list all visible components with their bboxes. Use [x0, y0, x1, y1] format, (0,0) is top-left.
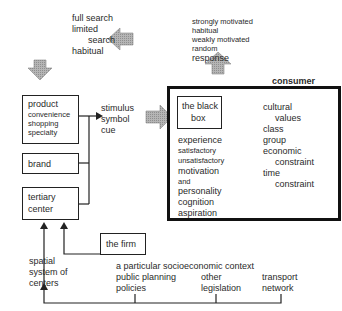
product-box: product convenience shopping specialty — [22, 95, 79, 144]
response-habitual: habitual — [192, 26, 218, 35]
spatial-line1: spatial — [29, 256, 55, 266]
stimulus-label: stimulus — [101, 103, 134, 113]
black-box-line1: the black — [182, 101, 218, 111]
public-planning-line2: policies — [116, 283, 146, 293]
product-convenience: convenience — [28, 110, 70, 119]
satisfactory-label: satisfactory — [178, 146, 216, 155]
search-type-full: full search — [72, 13, 113, 23]
time-label: time — [263, 168, 280, 178]
arrowhead-tertiary-spatial — [40, 222, 48, 229]
class-label: class — [263, 124, 284, 134]
response-label: response — [192, 53, 229, 63]
the-firm-label: the firm — [106, 239, 136, 249]
spatial-line2: system of — [29, 267, 68, 277]
group-label: group — [263, 135, 286, 145]
economic-label: economic — [263, 146, 302, 156]
tertiary-center-box: tertiary center — [22, 187, 79, 220]
product-specialty: specialty — [28, 128, 57, 137]
context-title: a particular socioeconomic context — [116, 261, 254, 271]
other-legislation-line1: other — [201, 272, 222, 282]
personality-label: personality — [178, 186, 222, 196]
experience-label: experience — [178, 135, 222, 145]
the-firm-box: the firm — [100, 233, 146, 255]
unsatisfactory-label: unsatisfactory — [178, 156, 224, 165]
response-random: random — [192, 44, 217, 53]
search-type-search: search — [88, 35, 115, 45]
transport-line2: network — [262, 283, 294, 293]
consumer-title: consumer — [272, 76, 315, 86]
response-strongly-motivated: strongly motivated — [192, 17, 253, 26]
cue-label: cue — [101, 125, 116, 135]
transport-line1: transport — [262, 272, 298, 282]
spatial-line3: centers — [29, 278, 59, 288]
values-label: values — [275, 113, 301, 123]
black-box-line2: box — [191, 113, 206, 123]
product-title: product — [28, 99, 58, 109]
product-shopping: shopping — [28, 119, 58, 128]
search-type-habitual: habitual — [72, 46, 104, 56]
motivation-label: motivation — [178, 166, 219, 176]
arrowhead-tertiary-firm — [60, 222, 68, 229]
consumer-box: the black box experience satisfactory un… — [167, 86, 341, 221]
and-label: and — [178, 177, 191, 186]
aspiration-label: aspiration — [178, 208, 217, 218]
cognition-label: cognition — [178, 197, 214, 207]
brand-box: brand — [22, 153, 79, 174]
public-planning-line1: public planning — [116, 272, 176, 282]
brand-label: brand — [28, 159, 51, 169]
search-type-limited: limited — [72, 24, 98, 34]
other-legislation-line2: legislation — [201, 283, 241, 293]
tertiary-line2: center — [28, 204, 53, 214]
arrow-down-icon — [28, 60, 52, 80]
black-box: the black box — [177, 96, 222, 129]
symbol-label: symbol — [101, 114, 130, 124]
response-weakly-motivated: weakly motivated — [192, 35, 250, 44]
time-constraint-label: constraint — [275, 179, 314, 189]
economic-constraint-label: constraint — [275, 157, 314, 167]
tertiary-line1: tertiary — [28, 192, 56, 202]
cultural-label: cultural — [263, 102, 292, 112]
